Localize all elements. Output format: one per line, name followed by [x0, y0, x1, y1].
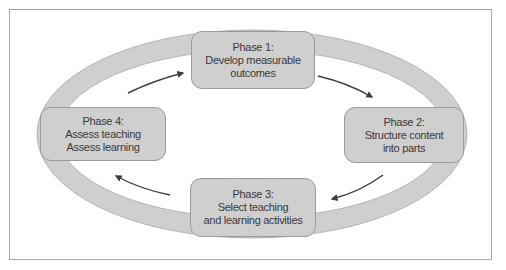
- phase-2-box: Phase 2: Structure content into parts: [344, 107, 464, 163]
- phase-1-line-2: outcomes: [230, 67, 275, 80]
- phase-4-title: Phase 4:: [82, 115, 123, 128]
- phase-2-line-2: into parts: [383, 142, 425, 155]
- phase-1-box: Phase 1: Develop measurable outcomes: [191, 31, 315, 89]
- phase-4-line-1: Assess teaching: [65, 128, 141, 141]
- phase-4-box: Phase 4: Assess teaching Assess learning: [40, 107, 166, 161]
- phase-1-title: Phase 1:: [232, 41, 273, 54]
- phase-3-box: Phase 3: Select teaching and learning ac…: [190, 178, 316, 237]
- phase-3-title: Phase 3:: [232, 188, 273, 201]
- arrow-phase2-to-phase3-icon: [332, 175, 383, 199]
- arrow-phase4-to-phase1-icon: [128, 73, 183, 93]
- phase-2-line-1: Structure content: [365, 129, 444, 142]
- phase-4-line-2: Assess learning: [66, 141, 139, 154]
- phase-3-line-2: and learning activities: [204, 214, 303, 227]
- arrow-phase1-to-phase2-icon: [318, 76, 372, 97]
- phase-3-line-1: Select teaching: [218, 201, 289, 214]
- phase-1-line-1: Develop measurable: [205, 54, 301, 67]
- arrow-phase3-to-phase4-icon: [116, 176, 170, 195]
- phase-2-title: Phase 2:: [383, 116, 424, 129]
